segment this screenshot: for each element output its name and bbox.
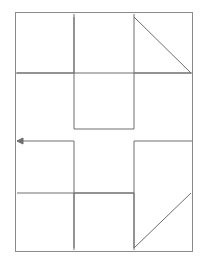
top-right-triangle [134,17,191,73]
top-center-bracket [74,14,134,73]
bottom-right-triangle [134,193,191,248]
left-arrow-icon [17,138,23,144]
lower-stem-polyline [17,141,192,193]
upper-stem-polyline [16,73,192,129]
figure-canvas [0,0,207,268]
bottom-left-triangle [17,193,74,248]
top-left-triangle [17,17,74,73]
bottom-center-bracket [74,193,134,250]
pinwheel-figure [0,0,207,268]
